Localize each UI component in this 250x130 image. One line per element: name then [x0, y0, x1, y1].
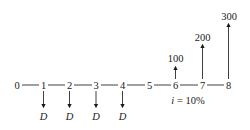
inflow-label-6: 100	[168, 53, 184, 64]
outflow-label-1: D	[39, 111, 48, 122]
period-label-5: 5	[147, 80, 152, 91]
outflow-label-2: D	[65, 111, 74, 122]
inflow-label-7: 200	[195, 32, 211, 43]
cash-flow-diagram: 0 1 2 3 4 5 6 7 8 D D D D 100 200 300 i …	[0, 0, 250, 130]
outflow-label-3: D	[91, 111, 100, 122]
inflow-label-8: 300	[221, 11, 237, 22]
period-label-8: 8	[226, 80, 231, 91]
inflow-arrows: 100 200 300	[168, 11, 237, 79]
period-labels: 0 1 2 3 4 5 6 7 8	[14, 80, 231, 91]
period-label-7: 7	[200, 80, 205, 91]
period-label-1: 1	[41, 80, 46, 91]
period-label-0: 0	[14, 80, 19, 91]
period-label-6: 6	[173, 80, 178, 91]
outflow-arrows: D D D D	[39, 91, 127, 122]
outflow-label-4: D	[118, 111, 127, 122]
period-label-4: 4	[120, 80, 126, 91]
period-label-2: 2	[67, 80, 72, 91]
interest-rate-label: i = 10%	[171, 95, 205, 106]
period-label-3: 3	[93, 80, 98, 91]
